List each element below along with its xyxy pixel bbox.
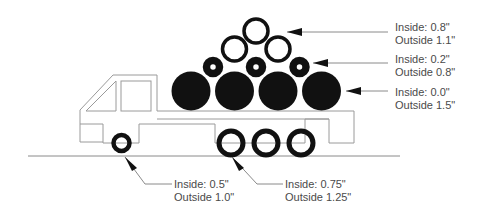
inside-diameter: Inside: 0.2" [395, 53, 455, 66]
callout-solid-pipes: Inside: 0.0" Outside 1.5" [395, 86, 455, 112]
callout-top-rings: Inside: 0.8" Outside 1.1" [395, 21, 455, 47]
outside-diameter: Outside 1.25" [285, 191, 351, 204]
inside-diameter: Inside: 0.8" [395, 21, 455, 34]
small-rings [207, 61, 307, 74]
inside-diameter: Inside: 0.0" [395, 86, 455, 99]
solid-pipes [172, 72, 342, 111]
outside-diameter: Outside 1.5" [395, 99, 455, 112]
callout-leaders [125, 28, 388, 184]
callout-front-wheel: Inside: 0.5" Outside 1.0" [174, 178, 234, 204]
inside-diameter: Inside: 0.5" [174, 178, 234, 191]
outside-diameter: Outside 1.1" [395, 34, 455, 47]
medium-rings [223, 19, 291, 61]
outside-diameter: Outside 1.0" [174, 191, 234, 204]
inside-diameter: Inside: 0.75" [285, 178, 351, 191]
callout-rear-wheels: Inside: 0.75" Outside 1.25" [285, 178, 351, 204]
callout-small-rings: Inside: 0.2" Outside 0.8" [395, 53, 455, 79]
outside-diameter: Outside 0.8" [395, 66, 455, 79]
